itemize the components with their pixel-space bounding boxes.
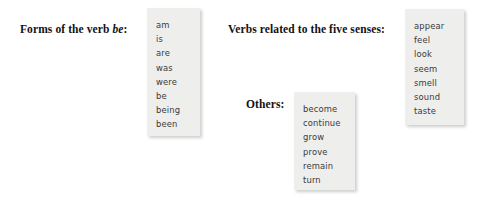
group-label-others: Others:	[246, 98, 284, 111]
group-label-forms-of-be: Forms of the verb be:	[20, 23, 128, 36]
list-item: remain	[303, 159, 349, 173]
list-item: seem	[414, 62, 458, 76]
list-item: am	[156, 18, 194, 32]
list-item: continue	[303, 116, 349, 130]
list-item: prove	[303, 145, 349, 159]
group-label-text-suffix: :	[124, 23, 128, 35]
list-item: feel	[414, 33, 458, 47]
list-item: turn	[303, 173, 349, 187]
verb-list-five-senses: appear feel look seem smell sound taste	[414, 19, 458, 118]
list-item: is	[156, 32, 194, 46]
group-label-five-senses: Verbs related to the five senses:	[228, 23, 385, 36]
group-label-text-prefix: Verbs related to the five senses:	[228, 23, 385, 35]
list-item: become	[303, 102, 349, 116]
group-label-text-italic: be	[113, 23, 124, 35]
list-box-five-senses: appear feel look seem smell sound taste	[405, 9, 464, 125]
list-box-others: become continue grow prove remain turn	[294, 92, 355, 190]
list-item: look	[414, 47, 458, 61]
group-label-text-prefix: Forms of the verb	[20, 23, 113, 35]
list-box-forms-of-be: am is are was were be being been	[147, 8, 200, 136]
list-item: be	[156, 89, 194, 103]
list-item: appear	[414, 19, 458, 33]
list-item: sound	[414, 90, 458, 104]
list-item: was	[156, 61, 194, 75]
linking-verbs-figure: Forms of the verb be: am is are was were…	[0, 0, 491, 213]
list-item: being	[156, 103, 194, 117]
list-item: grow	[303, 130, 349, 144]
group-label-text-prefix: Others:	[246, 98, 284, 110]
list-item: were	[156, 75, 194, 89]
verb-list-others: become continue grow prove remain turn	[303, 102, 349, 187]
verb-list-forms-of-be: am is are was were be being been	[156, 18, 194, 132]
list-item: taste	[414, 104, 458, 118]
list-item: are	[156, 46, 194, 60]
list-item: been	[156, 117, 194, 131]
list-item: smell	[414, 76, 458, 90]
